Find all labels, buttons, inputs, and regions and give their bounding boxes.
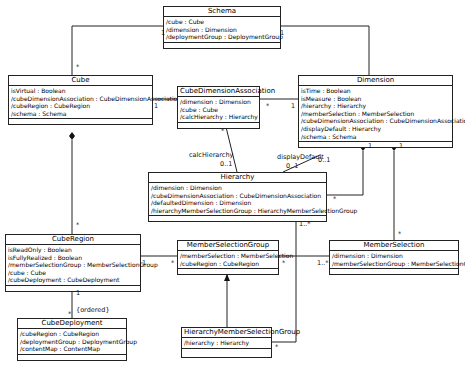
class-operations (299, 142, 452, 147)
multiplicity: * (76, 222, 79, 229)
class-attributes: /hierarchy : Hierarchy (182, 338, 271, 349)
multiplicity: * (282, 260, 285, 267)
multiplicity: 1 (76, 290, 80, 297)
class-attributes: /memberSelection : MemberSelection/cubeR… (178, 251, 278, 269)
composition-diamond (69, 132, 75, 140)
multiplicity: * (333, 196, 336, 203)
role-display-default: displayDefault (277, 154, 324, 161)
class-member-selection-group[interactable]: MemberSelectionGroup /memberSelection : … (177, 240, 279, 275)
class-cube-dimension-association[interactable]: CubeDimensionAssociation /dimension : Di… (177, 86, 260, 129)
class-cube[interactable]: Cube isVirtual : Boolean/cubeDimensionAs… (8, 75, 153, 125)
multiplicity: 1..* (317, 260, 329, 267)
class-attributes: /dimension : Dimension/cube : Cube/calcH… (178, 97, 259, 123)
class-operations (164, 43, 280, 48)
class-name: Dimension (299, 76, 452, 86)
class-operations (6, 286, 140, 291)
class-schema[interactable]: Schema /cube : Cube/dimension : Dimensio… (163, 6, 281, 49)
role-calc-hierarchy: calcHierarchy (189, 152, 233, 159)
multiplicity: 0..1 (286, 163, 298, 170)
multiplicity: * (68, 311, 71, 318)
multiplicity: * (275, 344, 278, 351)
class-cube-deployment[interactable]: CubeDeployment /cubeRegion : CubeRegion/… (17, 318, 127, 361)
class-name: HierarchyMemberSelectionGroup (182, 328, 271, 338)
multiplicity: 1 (368, 143, 372, 150)
class-attributes: /dimension : Dimension/memberSelectionGr… (330, 251, 458, 269)
class-name: CubeDimensionAssociation (178, 87, 259, 97)
class-operations (178, 123, 259, 128)
multiplicity: 1 (291, 103, 295, 110)
class-attributes: isTime : BooleanisMeasure : Boolean/hier… (299, 86, 452, 142)
class-operations (9, 119, 152, 124)
class-operations (18, 355, 126, 360)
class-operations (178, 269, 278, 274)
multiplicity: 1..* (299, 221, 311, 228)
class-attributes: /cube : Cube/dimension : Dimension/deplo… (164, 17, 280, 43)
multiplicity: * (266, 103, 269, 110)
class-name: Hierarchy (149, 173, 326, 183)
class-name: Cube (9, 76, 152, 86)
class-operations (330, 269, 458, 274)
multiplicity: * (171, 260, 174, 267)
class-name: CubeRegion (6, 235, 140, 245)
class-attributes: /dimension : Dimension/cubeDimensionAsso… (149, 183, 326, 216)
class-member-selection[interactable]: MemberSelection /dimension : Dimension/m… (329, 240, 459, 275)
class-name: Schema (164, 7, 280, 17)
class-hierarchy-member-selection-group[interactable]: HierarchyMemberSelectionGroup /hierarchy… (181, 327, 272, 358)
multiplicity: * (221, 128, 224, 135)
class-dimension[interactable]: Dimension isTime : BooleanisMeasure : Bo… (298, 75, 453, 148)
class-cube-region[interactable]: CubeRegion isReadOnly : BooleanisFullyRe… (5, 234, 141, 292)
multiplicity: 0..1 (220, 161, 232, 168)
class-operations (182, 349, 271, 357)
multiplicity: 1 (280, 30, 284, 37)
multiplicity: 1 (399, 143, 403, 150)
class-name: CubeDeployment (18, 319, 126, 329)
class-hierarchy[interactable]: Hierarchy /dimension : Dimension/cubeDim… (148, 172, 327, 222)
multiplicity: 1 (161, 30, 165, 37)
class-name: MemberSelectionGroup (178, 241, 278, 251)
multiplicity: * (76, 64, 79, 71)
class-attributes: isReadOnly : BooleanisFullyRealized : Bo… (6, 245, 140, 286)
class-attributes: isVirtual : Boolean/cubeDimensionAssocia… (9, 86, 152, 119)
class-attributes: /cubeRegion : CubeRegion/deploymentGroup… (18, 329, 126, 355)
multiplicity: * (398, 231, 401, 238)
multiplicity: 1 (154, 103, 158, 110)
multiplicity: 1 (142, 260, 146, 267)
constraint-ordered: {ordered} (76, 307, 110, 314)
class-name: MemberSelection (330, 241, 458, 251)
